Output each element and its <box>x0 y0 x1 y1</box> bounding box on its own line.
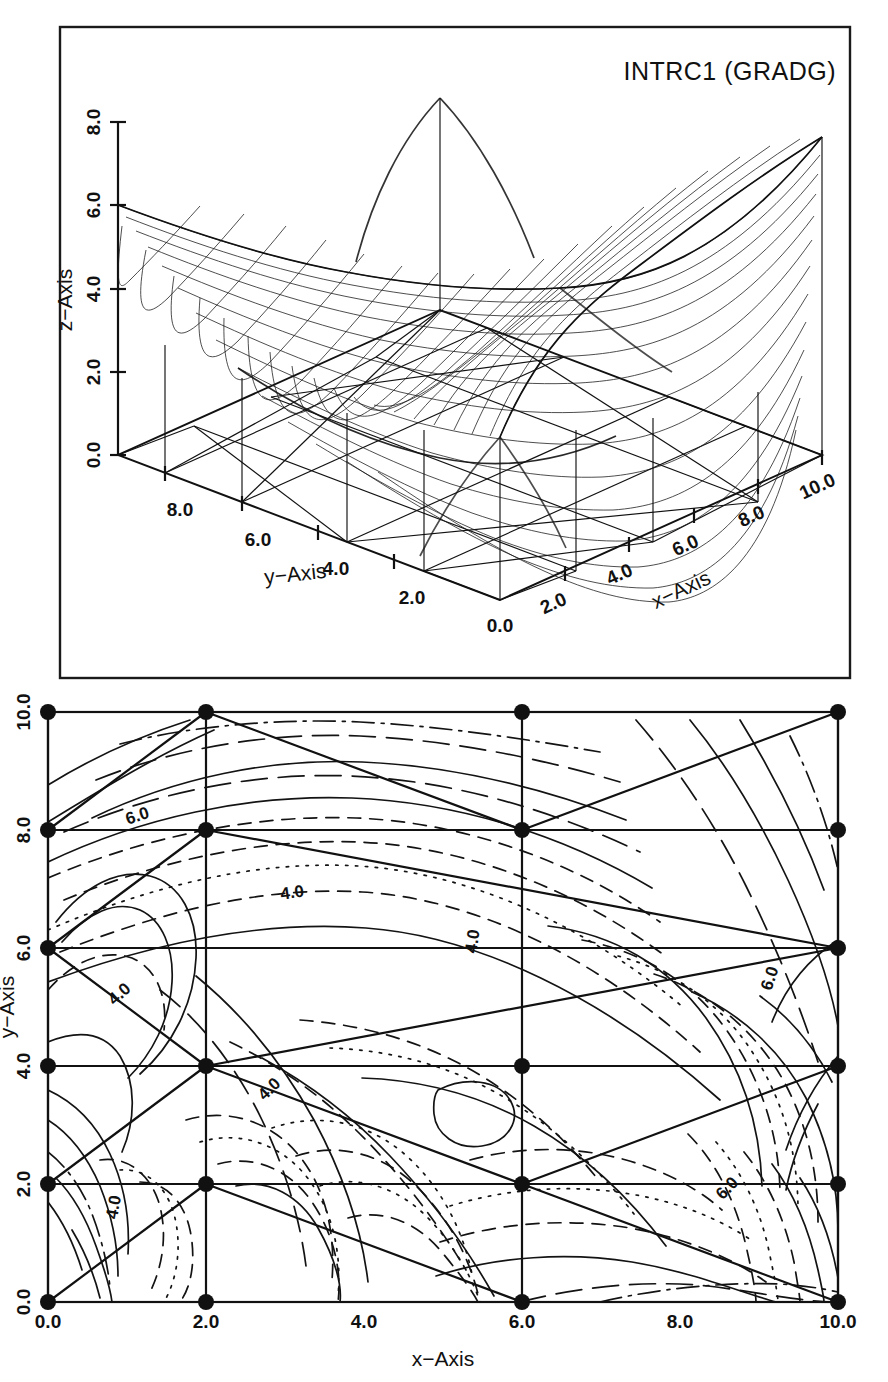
contour-x-tick-1: 2.0 <box>193 1311 219 1332</box>
contour-labels-group: 6.0 4.0 4.0 4.0 4.0 6.0 4.0 6.0 <box>102 803 782 1220</box>
contour-y-tick-5: 10.0 <box>13 694 34 731</box>
contour-label-4: 4.0 <box>462 928 484 954</box>
surface-y-tick-2: 2.0 <box>399 587 425 608</box>
figure-title: INTRC1 (GRADG) <box>623 57 836 85</box>
contour-x-tick-4: 8.0 <box>667 1311 693 1332</box>
surface-y-axis-group: 8.0 6.0 4.0 2.0 0.0 y−Axis <box>165 466 513 636</box>
z-tick-1: 2.0 <box>83 359 104 385</box>
contour-label-7: 6.0 <box>712 1173 742 1203</box>
z-tick-4: 8.0 <box>83 109 104 135</box>
surface-y-tick-6: 6.0 <box>245 529 271 550</box>
z-tick-2: 4.0 <box>83 276 104 302</box>
z-axis-label: z−Axis <box>53 269 76 331</box>
contour-plot-svg: 6.0 4.0 4.0 4.0 4.0 6.0 4.0 6.0 0.0 2.0 … <box>0 690 888 1382</box>
surface-y-tick-8: 8.0 <box>167 499 193 520</box>
surface-x-tick-2: 2.0 <box>537 588 570 618</box>
contour-label-6: 4.0 <box>102 1194 125 1221</box>
contour-label-5: 6.0 <box>757 964 782 992</box>
z-axis-group: 0.0 2.0 4.0 6.0 8.0 z−Axis <box>53 109 126 468</box>
z-tick-0: 0.0 <box>83 442 104 468</box>
contour-y-tick-4: 8.0 <box>13 817 34 843</box>
surface-plot-frame <box>60 27 850 678</box>
surface-y-axis-label: y−Axis <box>263 559 327 588</box>
figure-page: INTRC1 (GRADG) 0.0 2.0 4.0 6.0 8.0 z−Axi… <box>0 0 888 1382</box>
contour-x-tick-2: 4.0 <box>351 1311 377 1332</box>
contour-x-axis-group: 0.0 2.0 4.0 6.0 8.0 10.0 x−Axis <box>35 1311 857 1370</box>
contour-y-tick-1: 2.0 <box>13 1171 34 1197</box>
surface-x-tick-10: 10.0 <box>796 469 838 504</box>
contour-y-tick-0: 0.0 <box>13 1289 34 1315</box>
contour-y-axis-label: y−Axis <box>0 976 18 1038</box>
contour-x-axis-label: x−Axis <box>412 1347 474 1370</box>
contour-label-1: 4.0 <box>104 979 134 1009</box>
surface-x-axis-label: x−Axis <box>648 566 714 613</box>
contour-label-3: 4.0 <box>254 1074 284 1104</box>
contour-y-tick-2: 4.0 <box>13 1053 34 1079</box>
contour-x-tick-5: 10.0 <box>820 1311 857 1332</box>
contour-y-tick-3: 6.0 <box>13 935 34 961</box>
surface-plot-svg: INTRC1 (GRADG) 0.0 2.0 4.0 6.0 8.0 z−Axi… <box>0 0 888 690</box>
contour-plot-panel: 6.0 4.0 4.0 4.0 4.0 6.0 4.0 6.0 0.0 2.0 … <box>0 690 888 1382</box>
surface-y-tick-0: 0.0 <box>487 615 513 636</box>
surface-x-tick-6: 6.0 <box>669 530 702 560</box>
contour-label-2: 4.0 <box>279 882 305 904</box>
contour-x-tick-3: 6.0 <box>509 1311 535 1332</box>
z-tick-3: 6.0 <box>83 192 104 218</box>
surface-plot-panel: INTRC1 (GRADG) 0.0 2.0 4.0 6.0 8.0 z−Axi… <box>0 0 888 690</box>
contour-y-axis-group: 0.0 2.0 4.0 6.0 8.0 10.0 y−Axis <box>0 694 34 1316</box>
contour-x-tick-0: 0.0 <box>35 1311 61 1332</box>
